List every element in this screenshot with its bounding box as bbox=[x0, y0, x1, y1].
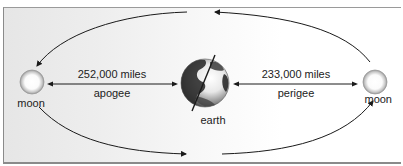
perigee-label: perigee bbox=[278, 87, 315, 99]
orbit-diagram: moon moon earth 252,000 miles apogee 233… bbox=[0, 0, 403, 166]
perigee-distance: 233,000 miles bbox=[262, 68, 331, 80]
orbit-arc-bottom-left bbox=[39, 107, 186, 154]
apogee-measure: 252,000 miles apogee bbox=[47, 68, 178, 99]
orbit-arc-top-left bbox=[37, 12, 187, 66]
orbit-arc-top-right bbox=[215, 12, 370, 62]
moon-icon bbox=[363, 70, 387, 94]
right-moon: moon bbox=[363, 70, 392, 105]
orbit-arc-bottom-right bbox=[222, 101, 373, 154]
earth: earth bbox=[181, 55, 229, 126]
earth-label: earth bbox=[200, 114, 225, 126]
apogee-distance: 252,000 miles bbox=[78, 68, 147, 80]
left-moon: moon bbox=[17, 70, 45, 109]
moon-icon bbox=[20, 70, 44, 94]
perigee-measure: 233,000 miles perigee bbox=[233, 68, 358, 99]
right-moon-label: moon bbox=[364, 93, 392, 105]
left-moon-label: moon bbox=[17, 97, 45, 109]
apogee-label: apogee bbox=[94, 87, 131, 99]
